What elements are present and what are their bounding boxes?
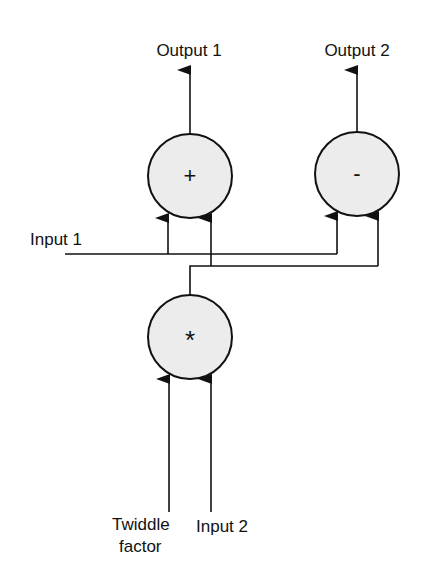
butterfly-diagram: + - * Output 1 Output 2 Input 1 Twiddle … <box>0 0 425 584</box>
twiddle-label-line1: Twiddle <box>112 515 170 534</box>
output1-label: Output 1 <box>156 41 221 60</box>
multiplier-symbol: * <box>185 325 195 355</box>
adder-node: + <box>148 134 232 218</box>
subtractor-symbol: - <box>353 161 360 186</box>
input1-label: Input 1 <box>30 230 82 249</box>
twiddle-label-line2: factor <box>119 537 162 556</box>
multiplier-node: * <box>148 295 232 379</box>
output2-label: Output 2 <box>324 41 389 60</box>
subtractor-node: - <box>315 132 399 216</box>
adder-symbol: + <box>184 163 197 188</box>
product-wire <box>190 266 378 295</box>
input2-label: Input 2 <box>196 517 248 536</box>
